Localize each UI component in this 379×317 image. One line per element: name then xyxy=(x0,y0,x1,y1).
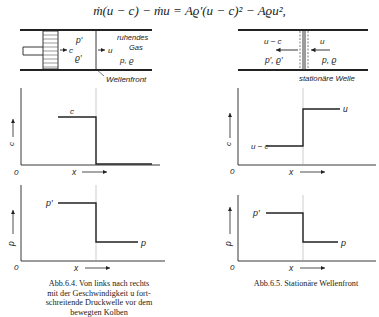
svg-text:p: p xyxy=(140,238,146,248)
svg-text:x: x xyxy=(73,263,79,273)
svg-text:p′: p′ xyxy=(45,198,53,208)
caption-abb-6-4: Abb.6.4. Von links nach rechts mit der G… xyxy=(14,279,184,317)
svg-text:p: p xyxy=(6,241,16,247)
label-rho-prime: ϱ′ xyxy=(75,53,82,63)
svg-text:x: x xyxy=(288,263,294,273)
svg-text:0: 0 xyxy=(14,263,19,272)
svg-text:0: 0 xyxy=(14,168,19,177)
svg-text:u − c: u − c xyxy=(264,37,282,46)
left-velocity-plot xyxy=(13,88,160,172)
label-wellenfront: Wellenfront xyxy=(106,75,147,84)
caption-abb-6-5: Abb.6.5. Stationäre Wellenfront xyxy=(236,279,376,289)
svg-text:c: c xyxy=(70,107,74,116)
svg-text:u − c: u − c xyxy=(251,142,269,151)
svg-text:x: x xyxy=(288,167,294,177)
label-p-prime: p′ xyxy=(75,35,83,45)
svg-text:u: u xyxy=(320,37,325,46)
svg-text:p′, ϱ′: p′, ϱ′ xyxy=(264,55,283,65)
piston-icon xyxy=(43,31,58,69)
label-c: c xyxy=(69,46,73,55)
label-u: u xyxy=(108,46,113,55)
right-velocity-plot xyxy=(230,88,376,172)
right-tube-diagram xyxy=(238,30,368,70)
label-ruhendes: ruhendes xyxy=(117,33,149,42)
svg-text:p: p xyxy=(340,238,346,248)
svg-text:p′: p′ xyxy=(252,208,260,218)
label-gas: Gas xyxy=(129,43,143,52)
label-stationaere-welle: stationäre Welle xyxy=(299,74,355,83)
svg-text:0: 0 xyxy=(230,167,235,176)
svg-text:0: 0 xyxy=(230,263,235,272)
left-pressure-plot xyxy=(13,185,165,268)
svg-text:c: c xyxy=(7,142,16,146)
right-pressure-plot xyxy=(230,195,376,268)
svg-text:u: u xyxy=(343,104,348,114)
svg-text:p: p xyxy=(223,241,233,247)
label-p-rho: p, ϱ xyxy=(119,56,134,65)
svg-text:x: x xyxy=(71,167,77,177)
svg-text:p, ϱ: p, ϱ xyxy=(321,55,336,65)
svg-text:c: c xyxy=(224,142,233,146)
